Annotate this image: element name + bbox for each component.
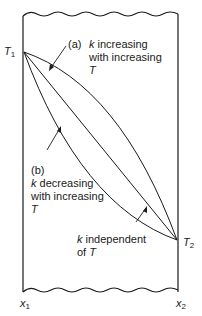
annotation-a-line2: with increasing (89, 52, 162, 63)
annotation-b-line2: with increasing (31, 191, 104, 202)
t2-subscript: 2 (190, 241, 194, 250)
t1-text: T (4, 45, 11, 57)
t1-subscript: 1 (11, 50, 15, 59)
wall-top-break (23, 12, 178, 16)
annotation-b-line3: T (31, 204, 38, 215)
label-t2: T2 (183, 237, 194, 251)
arrow-b (47, 126, 61, 150)
label-t1: T1 (4, 46, 15, 60)
x1-subscript: 1 (26, 302, 30, 311)
annotation-b-tag: (b) (31, 165, 44, 176)
b-rest: decreasing (37, 177, 94, 189)
a-rest: increasing (95, 38, 148, 50)
annotation-a-line1: k increasing (89, 39, 148, 50)
annotation-linear-line1: k independent (77, 234, 146, 245)
c-of: of (77, 246, 89, 258)
t2-text: T (183, 236, 190, 248)
wall-bottom-break (23, 288, 178, 292)
annotation-a-tag: (a) (68, 39, 81, 50)
annotation-linear-line2: of T (77, 247, 96, 258)
label-x2: x2 (176, 298, 186, 312)
label-x1: x1 (20, 298, 30, 312)
profile-linear (24, 52, 177, 240)
c-T: T (89, 246, 96, 258)
annotation-b-line1: k decreasing (31, 178, 93, 189)
annotation-a-line3: T (89, 65, 96, 76)
arrow-linear (136, 206, 147, 222)
arrow-a (49, 46, 66, 71)
c-rest: independent (83, 233, 147, 245)
x2-subscript: 2 (182, 302, 186, 311)
